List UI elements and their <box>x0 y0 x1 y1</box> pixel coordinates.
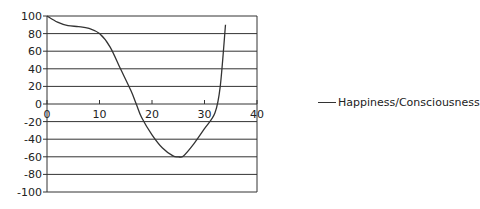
y-axis-ticks: 100806040200-20-40-60-80-100 <box>17 10 42 199</box>
y-tick-label: -60 <box>24 151 42 164</box>
y-tick-label: -100 <box>17 186 42 199</box>
x-tick-label: 0 <box>44 108 51 121</box>
x-tick-label: 30 <box>198 108 212 121</box>
x-tick-label: 20 <box>145 108 159 121</box>
x-tick-label: 10 <box>93 108 107 121</box>
legend-label: Happiness/Consciousness <box>338 96 480 109</box>
y-tick-label: -80 <box>24 168 42 181</box>
x-axis-ticks: 010203040 <box>44 100 265 121</box>
legend: Happiness/Consciousness <box>318 96 480 109</box>
y-tick-label: 40 <box>28 63 42 76</box>
y-tick-label: -20 <box>24 116 42 129</box>
legend-line-icon <box>318 102 336 103</box>
y-tick-label: 0 <box>35 98 42 111</box>
y-tick-label: 80 <box>28 28 42 41</box>
y-tick-label: 60 <box>28 45 42 58</box>
gridlines <box>43 16 257 192</box>
y-tick-label: 20 <box>28 80 42 93</box>
y-tick-label: 100 <box>21 10 42 23</box>
x-tick-label: 40 <box>250 108 264 121</box>
y-tick-label: -40 <box>24 133 42 146</box>
